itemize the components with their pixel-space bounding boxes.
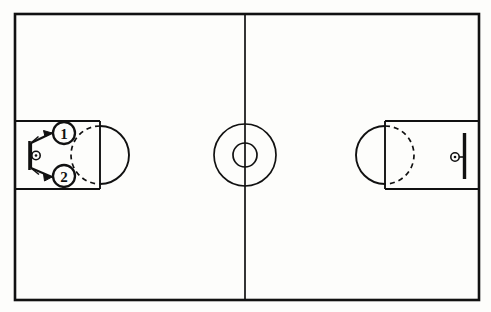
right-hoop-center-dot xyxy=(454,156,457,159)
player-marker-1-label: 1 xyxy=(60,126,68,142)
player-marker-2-label: 2 xyxy=(60,169,68,185)
left-hoop-center-dot xyxy=(35,154,38,157)
player-marker-1[interactable]: 1 xyxy=(53,122,75,144)
basketball-court-diagram: 1 2 xyxy=(0,0,491,312)
player-marker-2[interactable]: 2 xyxy=(53,165,75,187)
court-diagram-canvas: 1 2 xyxy=(0,0,491,312)
